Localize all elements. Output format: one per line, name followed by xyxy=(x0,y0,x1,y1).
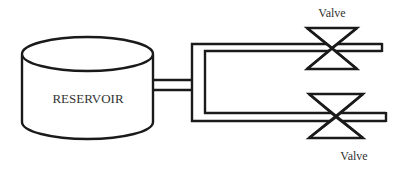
manifold-pipe xyxy=(192,44,386,121)
valve-bottom-label: Valve xyxy=(340,149,367,163)
reservoir: RESERVOIR xyxy=(22,37,153,139)
reservoir-outlet-pipe xyxy=(153,80,192,90)
gate-valve-icon xyxy=(307,28,357,69)
piping-diagram: RESERVOIR Valve Valve xyxy=(0,0,406,171)
gate-valve-icon xyxy=(309,94,363,138)
reservoir-top-ellipse xyxy=(22,37,153,71)
reservoir-label: RESERVOIR xyxy=(52,91,124,106)
valve-top-label: Valve xyxy=(318,6,345,20)
